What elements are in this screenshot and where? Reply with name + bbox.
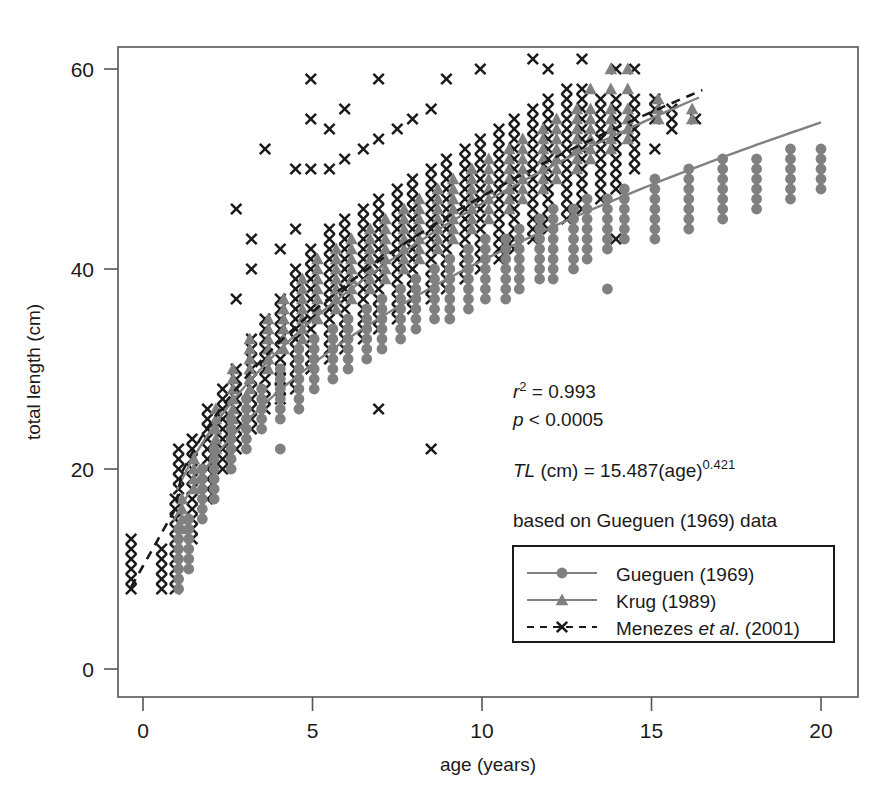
data-point-circle — [327, 374, 338, 385]
data-point-circle — [209, 484, 220, 495]
data-point-circle — [294, 404, 305, 415]
data-point-circle — [548, 234, 559, 245]
data-point-circle — [395, 324, 406, 335]
data-point-circle — [209, 474, 220, 485]
data-point-circle — [275, 444, 286, 455]
data-point-circle — [568, 264, 579, 275]
data-point-circle — [751, 184, 762, 195]
legend: Gueguen (1969)Krug (1989)Menezes et al. … — [513, 546, 834, 642]
data-point-circle — [410, 324, 421, 335]
data-point-circle — [568, 254, 579, 265]
p-value-number: 0.0005 — [545, 409, 603, 430]
data-point-circle — [500, 264, 511, 275]
data-point-circle — [327, 364, 338, 375]
data-point-circle — [619, 234, 630, 245]
equation-coefficient: 15.487 — [600, 460, 658, 481]
data-point-circle — [410, 314, 421, 325]
data-point-circle — [173, 554, 184, 565]
data-point-circle — [395, 284, 406, 295]
data-point-circle — [173, 584, 184, 595]
data-point-circle — [256, 424, 267, 435]
r-relation: = — [527, 381, 549, 402]
y-axis-label: total length (cm) — [23, 304, 44, 440]
data-point-circle — [717, 174, 728, 185]
data-point-circle — [429, 304, 440, 315]
x-tick-label: 0 — [137, 719, 149, 742]
y-tick-label: 40 — [71, 258, 94, 281]
data-point-circle — [275, 374, 286, 385]
data-point-circle — [463, 254, 474, 265]
data-point-circle — [602, 234, 613, 245]
data-point-circle — [294, 344, 305, 355]
data-point-circle — [582, 194, 593, 205]
plot-background — [0, 0, 890, 800]
data-point-circle — [548, 254, 559, 265]
data-point-circle — [717, 164, 728, 175]
data-point-circle — [500, 234, 511, 245]
y-tick-label: 60 — [71, 58, 94, 81]
data-point-circle — [275, 404, 286, 415]
equation-exponent: 0.421 — [703, 457, 736, 472]
y-tick-label: 20 — [71, 458, 94, 481]
data-point-circle — [463, 244, 474, 255]
data-point-circle — [534, 274, 545, 285]
data-point-circle — [534, 214, 545, 225]
r-value: 0.993 — [548, 381, 596, 402]
legend-label-post: . (2001) — [734, 618, 799, 639]
data-point-circle — [173, 574, 184, 585]
data-point-circle — [548, 274, 559, 285]
data-point-circle — [480, 294, 491, 305]
data-point-circle — [197, 494, 208, 505]
data-point-circle — [582, 254, 593, 265]
data-point-circle — [548, 214, 559, 225]
data-point-circle — [463, 304, 474, 315]
data-point-circle — [568, 224, 579, 235]
data-point-circle — [717, 204, 728, 215]
data-point-circle — [480, 264, 491, 275]
data-point-circle — [717, 184, 728, 195]
data-point-circle — [429, 264, 440, 275]
p-symbol: p — [512, 409, 524, 430]
data-point-circle — [602, 284, 613, 295]
data-point-circle — [343, 314, 354, 325]
data-point-circle — [785, 154, 796, 165]
data-point-circle — [619, 224, 630, 235]
r-exponent: 2 — [519, 379, 526, 394]
x-tick-label: 10 — [470, 719, 493, 742]
data-point-circle — [361, 334, 372, 345]
data-point-circle — [444, 264, 455, 275]
legend-label: Menezes et al. (2001) — [616, 618, 800, 639]
x-tick-label: 5 — [307, 719, 319, 742]
data-point-circle — [197, 504, 208, 515]
data-point-circle — [548, 204, 559, 215]
data-point-circle — [343, 324, 354, 335]
legend-label-italic: et al — [698, 618, 735, 639]
data-point-circle — [309, 344, 320, 355]
data-point-circle — [361, 304, 372, 315]
data-point-circle — [683, 194, 694, 205]
data-point-circle — [568, 234, 579, 245]
data-point-circle — [619, 204, 630, 215]
data-point-circle — [548, 264, 559, 275]
data-point-circle — [209, 464, 220, 475]
y-tick-label: 0 — [82, 658, 94, 681]
data-point-circle — [785, 194, 796, 205]
legend-label: Gueguen (1969) — [616, 564, 754, 585]
data-point-circle — [226, 414, 237, 425]
data-point-circle — [395, 334, 406, 345]
data-point-circle — [649, 214, 660, 225]
data-point-circle — [309, 384, 320, 395]
data-point-circle — [361, 354, 372, 365]
data-point-circle — [241, 444, 252, 455]
data-point-circle — [514, 274, 525, 285]
data-point-circle — [534, 244, 545, 255]
data-point-circle — [241, 394, 252, 405]
data-point-circle — [582, 244, 593, 255]
data-point-circle — [294, 394, 305, 405]
data-point-circle — [751, 154, 762, 165]
data-point-circle — [173, 524, 184, 535]
data-point-circle — [395, 314, 406, 325]
equation-annotation: TL (cm) = 15.487(age)0.421 — [513, 457, 735, 481]
data-point-circle — [377, 294, 388, 305]
data-point-circle — [514, 254, 525, 265]
